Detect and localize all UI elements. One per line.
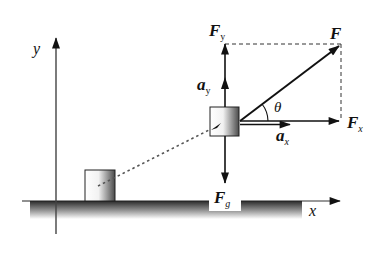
trajectory-path (98, 125, 219, 186)
force-F-arrow (240, 46, 339, 121)
angle-theta-label: θ (274, 100, 281, 115)
force-F-label: F (330, 25, 341, 42)
y-axis-label: y (33, 41, 40, 57)
ground (22, 200, 302, 219)
force-diagram (0, 0, 383, 273)
angle-theta-arc (262, 104, 268, 121)
x-axis-label: x (309, 203, 316, 219)
force-Fy-label: Fy (209, 22, 225, 39)
force-Fx-label: Fx (347, 114, 363, 131)
accel-ax-label: ax (276, 127, 289, 144)
accel-ay-label: ay (197, 76, 211, 93)
moving-block (210, 107, 239, 136)
component-construction-lines (225, 44, 341, 121)
force-Fg-label: Fg (214, 189, 230, 206)
